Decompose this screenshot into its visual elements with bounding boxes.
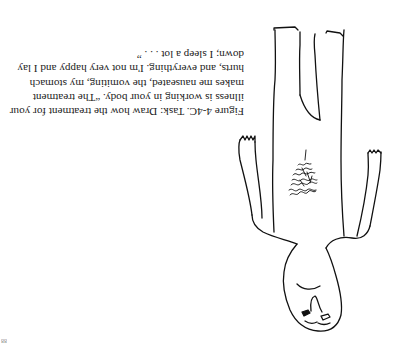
stomach-scribble bbox=[289, 150, 317, 195]
figure-caption: Figure 4-4C. Task: Draw how the treatmen… bbox=[4, 48, 244, 119]
scanned-page: Figure 4-4C. Task: Draw how the treatmen… bbox=[0, 0, 410, 347]
left-arm bbox=[239, 140, 252, 215]
eye-left-icon bbox=[302, 310, 310, 316]
right-foot bbox=[326, 31, 343, 36]
eye-right-icon bbox=[321, 314, 330, 320]
head-outline bbox=[283, 244, 341, 331]
figure-label: Figure 4-4C. bbox=[187, 106, 244, 118]
mouth bbox=[297, 284, 320, 289]
right-arm bbox=[370, 152, 381, 226]
left-foot bbox=[274, 27, 298, 30]
nose bbox=[311, 296, 322, 312]
page-number: 88 bbox=[1, 338, 7, 344]
